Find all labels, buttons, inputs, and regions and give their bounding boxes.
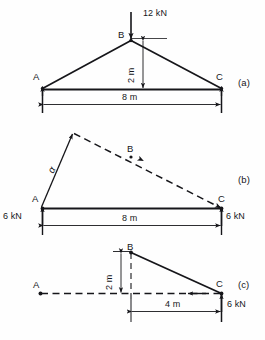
point-label-a-c: A <box>33 280 39 290</box>
panel-tag-c: (c) <box>238 280 249 290</box>
joint-dot-a <box>39 292 43 296</box>
point-label-b-c: B <box>127 242 133 252</box>
joint-dot-a <box>41 87 44 90</box>
point-label-b-b: B <box>127 144 133 154</box>
point-label-c-c: C <box>216 279 223 289</box>
point-label-a-b: A <box>32 194 38 204</box>
panel-tag-b: (b) <box>238 175 250 185</box>
point-label-c-a: C <box>216 72 223 82</box>
joint-dot-c <box>220 87 223 90</box>
panel-c-drawing <box>39 251 224 322</box>
point-label-a-a: A <box>33 72 39 82</box>
load-label-12kn: 12 kN <box>143 9 167 18</box>
dim-label-halfspan-4m-c: 4 m <box>165 300 180 309</box>
joint-dot-b <box>129 39 132 42</box>
joint-dot-a <box>41 207 45 211</box>
joint-dot-c <box>220 207 224 211</box>
figure-root: 12 kN B A C 2 m 8 m (a) α B A C 6 kN 6 k… <box>0 0 265 340</box>
reaction-label-left-6kn: 6 kN <box>3 212 22 221</box>
reaction-label-right-6kn: 6 kN <box>226 212 245 221</box>
member-bc <box>131 41 222 89</box>
point-label-c-b: C <box>218 194 225 204</box>
dim-label-span-8m-b: 8 m <box>122 214 137 223</box>
reaction-label-c-6kn: 6 kN <box>227 300 246 309</box>
dim-label-rise-2m-a: 2 m <box>127 68 136 83</box>
dashed-resultant-line <box>74 134 221 209</box>
point-label-b-a: B <box>118 30 124 40</box>
joint-dot-c <box>220 292 224 296</box>
joint-dot-b <box>129 155 132 158</box>
dim-label-rise-2m-c: 2 m <box>105 275 114 290</box>
member-ab <box>43 41 132 89</box>
figure-drawing <box>0 0 265 340</box>
panel-tag-a: (a) <box>238 78 250 88</box>
member-bc <box>131 253 222 294</box>
dim-label-span-8m-a: 8 m <box>122 93 137 102</box>
